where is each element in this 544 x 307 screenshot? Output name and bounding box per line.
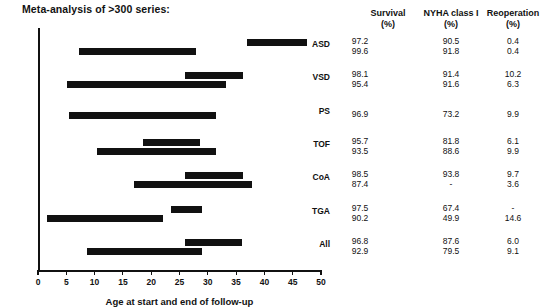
stat-asd-reoperation-1: 0.4 [507,36,519,46]
stat-tof-survival-1: 95.7 [352,136,369,146]
stat-asd-survival-2: 99.6 [352,46,369,56]
column-header-nyha-label: NYHA class I [423,8,478,18]
y-axis-line [38,28,40,271]
category-label-vsd: VSD [296,72,330,82]
stat-tof-reoperation-1: 6.1 [507,136,519,146]
bar-all-1 [185,239,242,246]
stat-tga-survival-2: 90.2 [352,213,369,223]
stat-tga-nyha-1: 67.4 [443,203,460,213]
category-label-ps: PS [296,106,330,116]
x-tick-5 [66,270,67,275]
bar-tga-2 [47,215,162,222]
stat-ps-survival-1: 96.9 [352,109,369,119]
column-header-reoperation: Reoperation (%) [482,8,544,29]
stat-asd-nyha-1: 90.5 [443,36,460,46]
column-header-nyha: NYHA class I (%) [416,8,486,29]
x-tick-label-35: 35 [231,277,240,287]
stat-coa-reoperation-1: 9.7 [507,169,519,179]
stat-vsd-nyha-2: 91.6 [443,79,460,89]
x-tick-label-0: 0 [36,277,41,287]
statistics-table: Survival (%) NYHA class I (%) Reoperatio… [332,0,524,301]
bar-coa-2 [134,181,252,188]
stat-vsd-survival-1: 98.1 [352,69,369,79]
stat-asd-reoperation-2: 0.4 [507,46,519,56]
column-header-survival-label: Survival [370,8,405,18]
stat-vsd-nyha-1: 91.4 [443,69,460,79]
stat-tga-survival-1: 97.5 [352,203,369,213]
stat-all-nyha-2: 79.5 [443,246,460,256]
bar-asd-1 [247,39,306,46]
stat-vsd-reoperation-2: 6.3 [507,79,519,89]
x-tick-label-10: 10 [90,277,99,287]
category-label-coa: CoA [296,172,330,182]
bar-all-2 [87,248,202,255]
column-header-survival: Survival (%) [360,8,416,29]
stat-vsd-survival-2: 95.4 [352,79,369,89]
x-tick-35 [236,270,237,275]
stat-all-survival-2: 92.9 [352,246,369,256]
x-tick-label-50: 50 [316,277,325,287]
x-tick-50 [320,270,321,275]
x-tick-label-45: 45 [288,277,297,287]
x-tick-45 [292,270,293,275]
x-tick-25 [179,270,180,275]
bar-vsd-2 [67,81,225,88]
column-header-reoperation-label: Reoperation [487,8,540,18]
x-tick-40 [264,270,265,275]
x-tick-label-15: 15 [118,277,127,287]
x-tick-label-5: 5 [64,277,69,287]
stat-all-survival-1: 96.8 [352,236,369,246]
page-title: Meta-analysis of >300 series: [22,3,170,15]
bar-tof-1 [143,139,200,146]
stat-tof-reoperation-2: 9.9 [507,146,519,156]
stat-coa-survival-1: 98.5 [352,169,369,179]
bar-tof-2 [97,148,215,155]
stat-tof-nyha-1: 81.8 [443,136,460,146]
bar-ps-1 [69,112,217,119]
bar-vsd-1 [185,72,243,79]
x-tick-15 [122,270,123,275]
x-tick-10 [94,270,95,275]
range-bar-chart: 05101520253035404550 ASDVSDPSTOFCoATGAAl… [0,24,330,301]
bar-coa-1 [185,172,243,179]
stat-tof-nyha-2: 88.6 [443,146,460,156]
stat-coa-nyha-2: - [450,179,453,189]
bar-asd-2 [79,48,197,55]
x-tick-label-20: 20 [146,277,155,287]
stat-tga-reoperation-2: 14.6 [505,213,522,223]
category-label-all: All [296,239,330,249]
stat-ps-reoperation-1: 9.9 [507,109,519,119]
stat-asd-survival-1: 97.2 [352,36,369,46]
x-tick-30 [207,270,208,275]
x-tick-0 [37,270,38,275]
category-label-tof: TOF [296,139,330,149]
x-axis-title: Age at start and end of follow-up [38,296,321,307]
stat-all-reoperation-2: 9.1 [507,246,519,256]
column-header-reoperation-unit: (%) [482,19,544,29]
stat-tga-nyha-2: 49.9 [443,213,460,223]
x-tick-20 [151,270,152,275]
category-label-tga: TGA [296,206,330,216]
stat-asd-nyha-2: 91.8 [443,46,460,56]
column-header-nyha-unit: (%) [416,19,486,29]
stat-all-nyha-1: 87.6 [443,236,460,246]
stat-coa-nyha-1: 93.8 [443,169,460,179]
stat-tof-survival-2: 93.5 [352,146,369,156]
bar-tga-1 [171,206,202,213]
stat-all-reoperation-1: 6.0 [507,236,519,246]
x-tick-label-30: 30 [203,277,212,287]
stat-coa-survival-2: 87.4 [352,179,369,189]
stat-coa-reoperation-2: 3.6 [507,179,519,189]
column-header-survival-unit: (%) [360,19,416,29]
stat-vsd-reoperation-1: 10.2 [505,69,522,79]
x-tick-label-25: 25 [175,277,184,287]
stat-ps-nyha-1: 73.2 [443,109,460,119]
x-tick-label-40: 40 [260,277,269,287]
stat-tga-reoperation-1: - [512,203,515,213]
